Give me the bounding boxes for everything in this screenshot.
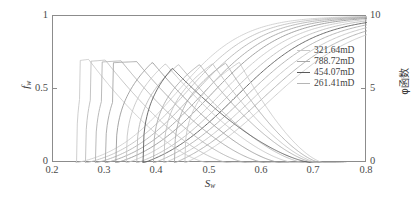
chart-figure: fw φ函数 Sw 1 0.5 0 10 5 0 0.2 0.3 0.4 0.5…	[0, 0, 417, 199]
legend-label-2: 454.07mD	[314, 67, 354, 78]
legend-item-3[interactable]: 261.41mD	[297, 78, 372, 89]
fractional-flow-curves	[76, 17, 368, 163]
x-tick-label-03: 0.3	[87, 164, 121, 175]
x-tick-label-04: 0.4	[139, 164, 173, 175]
y-right-tick-label-5: 5	[370, 82, 394, 93]
legend-item-0[interactable]: 321.64mD	[297, 45, 372, 56]
y-left-tick-label-05: 0.5	[24, 82, 48, 93]
legend-swatch-icon-3	[297, 83, 310, 84]
x-axis-title-text: Sw	[205, 177, 216, 189]
legend-label-1: 788.72mD	[314, 56, 354, 67]
y-right-tick-label-10: 10	[370, 9, 394, 20]
x-tick-label-07: 0.7	[296, 164, 330, 175]
legend-label-0: 321.64mD	[314, 45, 354, 56]
x-tick-label-08: 0.8	[349, 164, 383, 175]
x-tick-label-05: 0.5	[192, 164, 226, 175]
x-tick-label-06: 0.6	[244, 164, 278, 175]
legend-label-3: 261.41mD	[314, 78, 354, 89]
legend-item-1[interactable]: 788.72mD	[297, 56, 372, 67]
legend: 321.64mD 788.72mD 454.07mD 261.41mD	[297, 45, 372, 89]
curves-canvas	[53, 16, 367, 163]
legend-item-2[interactable]: 454.07mD	[297, 67, 372, 78]
legend-swatch-icon-1	[297, 61, 310, 62]
x-axis-title: Sw	[175, 177, 245, 190]
y-axis-right-title: φ函数	[396, 67, 411, 97]
legend-swatch-icon-2	[297, 72, 310, 73]
y-left-tick-label-1: 1	[24, 9, 48, 20]
x-tick-label-02: 0.2	[35, 164, 69, 175]
legend-swatch-icon-0	[297, 50, 310, 51]
fw-4-line	[105, 18, 367, 163]
